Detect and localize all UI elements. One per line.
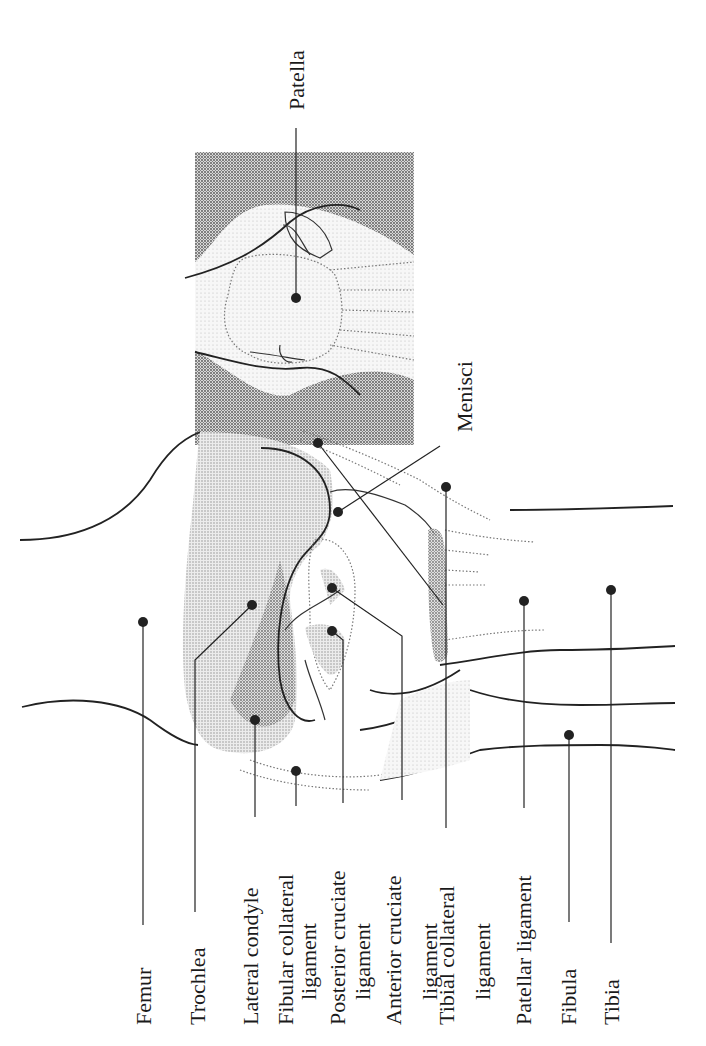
label-tibia: Tibia [599, 979, 624, 1025]
tibia-fibula-contour [360, 506, 675, 780]
label-fibular-collateral-1: Fibular collateral [273, 874, 298, 1025]
label-menisci: Menisci [452, 361, 477, 432]
label-patellar-ligament: Patellar ligament [511, 875, 536, 1025]
femoral-condyle [183, 432, 333, 753]
label-femur: Femur [131, 967, 156, 1025]
label-tibial-collateral-1: Tibial collateral [434, 886, 459, 1025]
label-posterior-cruciate-2: ligament [350, 923, 375, 1000]
label-fibula: Fibula [556, 969, 581, 1025]
label-tibial-collateral-2: ligament [470, 923, 495, 1000]
label-lateral-condyle: Lateral condyle [238, 888, 263, 1025]
knee-anatomy-diagram: Patella Menisci Femur Trochlea Lateral c… [0, 0, 706, 1046]
label-patella: Patella [284, 50, 309, 110]
label-anterior-cruciate-1: Anterior cruciate [381, 875, 406, 1025]
label-posterior-cruciate-1: Posterior cruciate [325, 870, 350, 1025]
label-fibular-collateral-2: ligament [296, 923, 321, 1000]
label-trochlea: Trochlea [185, 947, 210, 1025]
femur-contour [20, 432, 200, 745]
